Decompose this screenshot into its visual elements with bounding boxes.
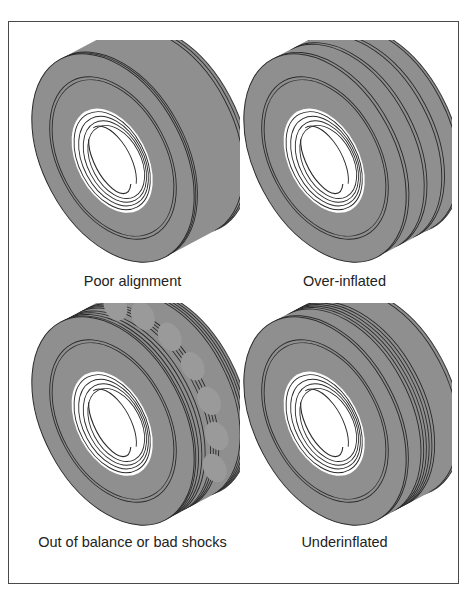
- caption-poor-alignment: Poor alignment: [25, 273, 240, 289]
- tire-illustration-out-of-balance: [25, 303, 240, 533]
- caption-underinflated: Underinflated: [237, 534, 452, 550]
- panel-over-inflated: Over-inflated: [237, 40, 452, 300]
- panel-out-of-balance: Out of balance or bad shocks: [25, 303, 240, 563]
- panel-poor-alignment: Poor alignment: [25, 40, 240, 300]
- caption-over-inflated: Over-inflated: [237, 273, 452, 289]
- tire-illustration-poor-alignment: [25, 40, 240, 270]
- caption-out-of-balance: Out of balance or bad shocks: [25, 534, 240, 550]
- panel-underinflated: Underinflated: [237, 303, 452, 563]
- tire-illustration-over-inflated: [237, 40, 452, 270]
- tire-illustration-underinflated: [237, 303, 452, 533]
